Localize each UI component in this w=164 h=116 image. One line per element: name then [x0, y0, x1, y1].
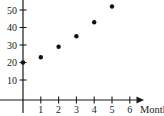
data-point — [39, 55, 43, 59]
x-tick-label: 5 — [110, 104, 115, 115]
y-tick-label: 20 — [7, 57, 17, 68]
data-point — [92, 20, 96, 24]
scatter-plot: 1020304050123456Month — [0, 0, 164, 116]
x-axis-arrow-icon — [137, 97, 145, 104]
data-point — [74, 34, 78, 38]
y-tick-label: 10 — [7, 75, 17, 86]
x-tick-label: 6 — [127, 104, 132, 115]
x-tick-label: 1 — [38, 104, 43, 115]
y-tick-label: 50 — [7, 5, 17, 16]
data-point — [56, 45, 60, 49]
y-tick-label: 40 — [7, 22, 17, 33]
x-tick-label: 3 — [74, 104, 79, 115]
y-tick-label: 30 — [7, 40, 17, 51]
x-tick-label: 2 — [56, 104, 61, 115]
data-point — [21, 60, 25, 64]
x-axis-label: Month — [140, 104, 164, 115]
data-point — [110, 4, 114, 8]
x-tick-label: 4 — [92, 104, 97, 115]
scatter-plot-figure: 1020304050123456Month — [0, 0, 164, 116]
